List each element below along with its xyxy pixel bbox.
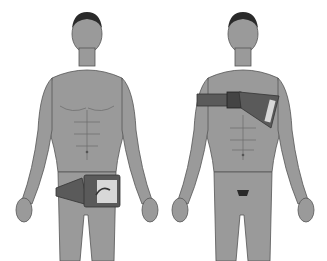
male-figure-illustration [0,0,163,261]
pubic-hair [237,190,249,196]
figure-left-pelvic-device [0,0,163,261]
illustration-stage [0,0,327,261]
male-figure-illustration [163,0,326,261]
figure-right-chest-device [163,0,326,261]
